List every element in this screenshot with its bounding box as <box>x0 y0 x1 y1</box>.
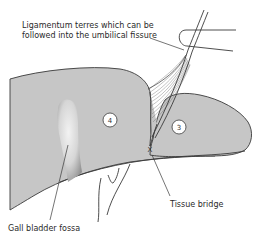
segment-3-badge: 3 <box>172 120 186 134</box>
ligamentum-label: Ligamentum terres which can be followed … <box>22 21 157 41</box>
tissue-bridge-marker: X <box>148 146 153 154</box>
svg-text:4: 4 <box>108 117 113 125</box>
ligamentum-label-line1: Ligamentum terres which can be <box>22 21 157 31</box>
ligamentum-label-line2: followed into the umbilical fissure <box>22 31 157 41</box>
liver-segment-3-lobe <box>150 93 252 156</box>
leader-tissue-bridge <box>152 155 170 196</box>
liver-diagram: 4 3 X Ligamentum terres which can be fol… <box>0 0 262 243</box>
svg-text:3: 3 <box>177 124 181 132</box>
hilar-vessels <box>98 164 130 222</box>
segment-4-badge: 4 <box>103 113 117 127</box>
gall-bladder-fossa-label: Gall bladder fossa <box>8 224 80 234</box>
tissue-bridge-label: Tissue bridge <box>170 200 223 210</box>
